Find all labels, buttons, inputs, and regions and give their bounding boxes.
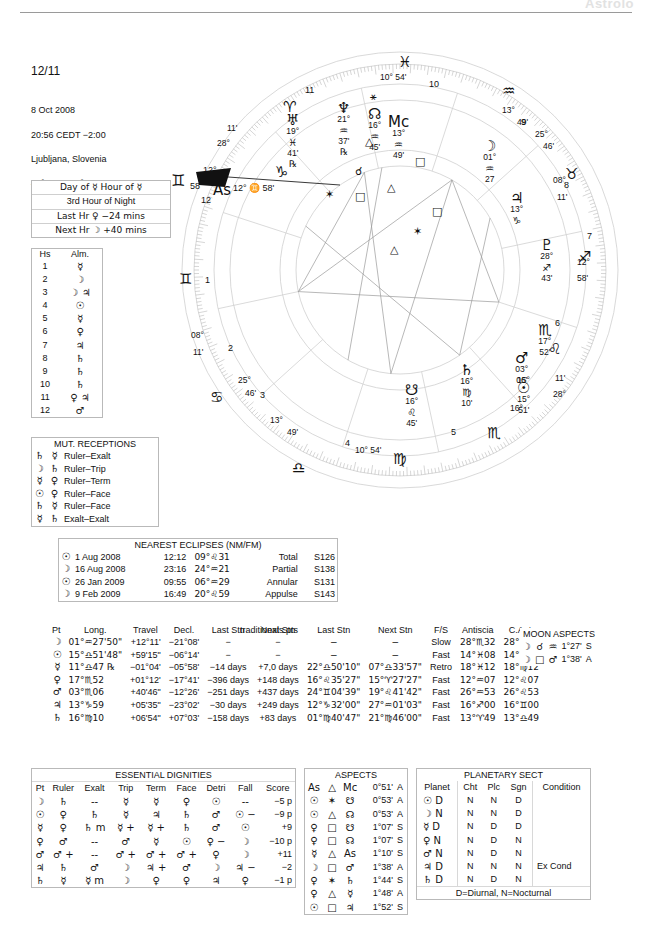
position-longitude: 01°♒27'50" (65, 636, 127, 649)
eclipse-body-icon: ☉ (59, 576, 73, 588)
dignity-fall: ♃ − (230, 861, 260, 874)
col-almuten: Alm. (58, 249, 102, 260)
wheel-planet-group[interactable]: Mc13°♒49' (388, 117, 409, 161)
wheel-planet-group[interactable]: ♇28°♐43' (540, 240, 553, 284)
house-almuten-row: 7♃ (32, 339, 102, 352)
wheel-planet-degree: 16° (405, 396, 418, 407)
position-planet-icon: ♂ (48, 686, 65, 699)
dignity-fall: -- (230, 795, 260, 808)
positions-col-header: Last Stn (303, 625, 365, 636)
sect-col-header: Sgn (505, 781, 533, 794)
wheel-planet-icon: ☽ (483, 141, 496, 152)
sect-sign: D (505, 807, 533, 820)
dignity-face: ♂ + (171, 848, 201, 861)
positions-col-header: Decl. (165, 625, 204, 636)
wheel-planet-minute: 45' (405, 418, 418, 429)
position-next-stn-pos: 21°♍46'00" (364, 712, 426, 725)
dignity-ruler: ♀ (48, 808, 78, 821)
position-next-stn-pos: 07°♎33'57" (364, 661, 426, 674)
dignity-col-header: Score (260, 782, 295, 795)
moon-aspect-applying: A (584, 653, 594, 666)
wheel-planet-group[interactable]: ♄16°♍10' (460, 365, 473, 409)
wheel-planet-minute: 27 (483, 174, 496, 185)
wheel-planet-icon: Mc (388, 117, 409, 128)
sect-planet: ☿ D (417, 820, 458, 833)
position-contra-antiscia: 12°♌07 (499, 674, 542, 687)
dignity-term: ♃ + (141, 861, 171, 874)
aspect-row: ☉△☊0°53'A (305, 808, 407, 821)
wheel-aspect-icon: ☌ (355, 165, 362, 178)
positions-col-header: Last Stn (203, 625, 253, 636)
position-declination: +07°03' (165, 712, 204, 725)
moon-aspects-panel: MOON ASPECTS ☽☌♒1°27'S☽□♂1°38'A (520, 628, 638, 666)
house-cusp-number: 11 (305, 85, 314, 95)
zodiac-sign-icon: ♏ (487, 424, 500, 442)
aspect-body-a: ♀ (305, 874, 323, 887)
astrology-chart-wheel[interactable]: ♓♈♒♑♐♊♌♋♏♍♎♉11109876543211210° 54'13°49'… (165, 35, 635, 505)
planetary-sect-panel: PLANETARY SECT PlanetChtPlcSgnCondition … (416, 768, 591, 900)
wheel-planet-icon: ♆ (337, 103, 350, 114)
house-cusp-degree: 12° (577, 257, 590, 267)
position-planet-icon: ♃ (48, 699, 65, 712)
house-cusp-number: 6 (555, 318, 560, 328)
dignity-row: ♄☿☿ m☽♀♀♃♀−1 p (32, 874, 295, 887)
wheel-planet-group[interactable]: ♃13°♑ (510, 193, 523, 226)
dignity-row: ☿♀♄ m☿ +☿ +♄♂☉+9 (32, 821, 295, 834)
wheel-aspect-icon: ✶ (413, 225, 422, 238)
position-longitude: 16°♍10 (65, 712, 127, 725)
aspect-symbol: ✶ (323, 794, 341, 807)
sect-place: N (483, 860, 505, 873)
house-cusp-degree: 58' (577, 273, 588, 283)
eclipse-kind: Appulse (248, 588, 302, 600)
sect-row: ☉ DNND (417, 794, 590, 807)
dignity-ruler: ♄ (48, 795, 78, 808)
sect-col-header: Cht (458, 781, 483, 794)
aspect-orb: 1°48' (359, 887, 395, 900)
asc-degree-top: 12° (203, 165, 217, 175)
wheel-planet-sign-icon: ♒ (483, 163, 496, 174)
dignity-ruler: ☿ (48, 874, 78, 887)
dignity-exalt: -- (78, 848, 110, 861)
dignity-term: ☿ (141, 835, 171, 848)
aspect-body-b: As (341, 847, 359, 860)
wheel-planet-group[interactable]: ♆21°♒37'℞ (337, 103, 350, 158)
wheel-planet-group[interactable]: ☋16°♌45' (405, 385, 418, 429)
planetary-sect-title: PLANETARY SECT (417, 769, 590, 781)
dignity-face: ♂ (171, 861, 201, 874)
aspect-body-a: ☉ (305, 808, 323, 821)
position-last-stn-pos: 16°♌35'27" (303, 674, 365, 687)
position-next-stn-days: +437 days (253, 686, 303, 699)
aspect-applying: A (395, 808, 407, 821)
chart-date: 8 Oct 2008 (31, 104, 107, 116)
house-almuten-row: 8♄ (32, 352, 102, 365)
wheel-planet-group[interactable]: ♅19°♓41'℞ (286, 115, 299, 170)
wheel-aspect-icon: ✶ (325, 188, 334, 201)
moon-aspect-symbol: ☌ (533, 640, 546, 653)
gemini-asc-icon: ♊ (171, 171, 185, 190)
wheel-inner-ring (280, 150, 520, 390)
wheel-aspect-icon: □ (355, 190, 365, 203)
house-cusp-degree: 25° (238, 375, 251, 385)
reception-planet-a: ♄ (32, 500, 47, 513)
sect-chart: N (458, 847, 483, 860)
house-cusp-degree: 49' (517, 117, 528, 127)
position-next-stn-days: +83 days (253, 712, 303, 725)
house-almuten: ♀ ♃ (58, 391, 102, 404)
positions-row: ♀17°♏52+01°12'−17°41'−396 days+148 days1… (48, 674, 543, 687)
aspect-applying: S (395, 834, 407, 847)
dignity-ruler: ♂ + (48, 848, 78, 861)
wheel-planet-group[interactable]: ☉15°51' (517, 383, 530, 416)
aspect-body-a: ♀ (305, 887, 323, 900)
house-cusp-number: 5 (451, 427, 456, 437)
wheel-planet-group[interactable]: ☽01°♒27 (483, 141, 496, 185)
position-travel: +40'46" (126, 686, 165, 699)
day-hour-ruler: Day of ☿ Hour of ☿ (32, 181, 170, 194)
reception-planet-a: ☿ (32, 513, 47, 526)
reception-type: Ruler–Exalt (62, 450, 158, 463)
sect-col-header: Plc (483, 781, 505, 794)
position-last-stn-pos: − (303, 649, 365, 662)
wheel-aspect-icon: □ (432, 205, 442, 218)
wheel-planet-group[interactable]: ♏17°52' (538, 325, 551, 358)
dignity-ruler: ♄ (48, 861, 78, 874)
positions-row: ♂03°♏06+40'46"−12°26'−251 days+437 days2… (48, 686, 543, 699)
